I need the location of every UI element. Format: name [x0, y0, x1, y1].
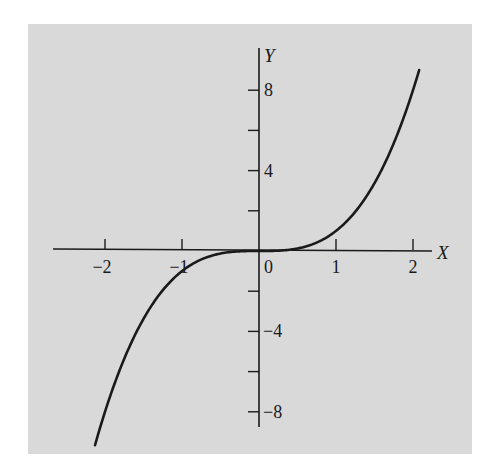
y-tick-label: 4 — [264, 161, 273, 181]
plot-background — [28, 24, 472, 454]
y-tick-label: −8 — [263, 402, 282, 422]
x-axis-label: X — [436, 242, 450, 263]
x-tick-label: 2 — [409, 257, 418, 277]
chart-figure: X Y 0 −2−112 84−4−8 — [0, 0, 496, 475]
x-tick-label: 1 — [332, 257, 341, 277]
x-tick-label: −1 — [169, 257, 188, 277]
y-tick-label: −4 — [263, 321, 282, 341]
x-tick-label: −2 — [92, 257, 111, 277]
origin-label: 0 — [264, 257, 273, 277]
y-tick-label: 8 — [264, 80, 273, 100]
